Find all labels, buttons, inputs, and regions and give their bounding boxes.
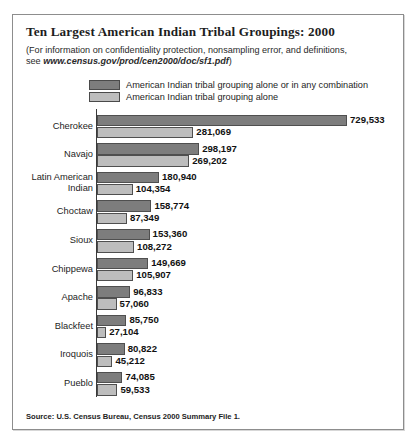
census-url-link[interactable]: www.census.gov/prod/cen2000/doc/sf1.pdf	[43, 56, 229, 66]
category-label: Blackfeet	[9, 321, 93, 332]
bar[interactable]	[97, 356, 112, 368]
category-label: Sioux	[9, 235, 93, 246]
category-label: Choctaw	[9, 206, 93, 217]
bar-value-label: 96,833	[130, 286, 162, 298]
bar[interactable]	[97, 372, 122, 384]
bar[interactable]	[97, 343, 125, 355]
chart-group: Pueblo74,08559,533	[13, 369, 405, 398]
bar[interactable]	[97, 229, 150, 241]
bar[interactable]	[97, 327, 106, 339]
plot-area: Cherokee729,533281,069Navajo298,197269,2…	[13, 109, 405, 399]
chart-group: Iroquois80,82245,212	[13, 341, 405, 370]
bar-value-label: 269,202	[189, 155, 227, 167]
figure-container: Ten Largest American Indian Tribal Group…	[12, 14, 404, 430]
bar[interactable]	[97, 315, 126, 327]
source-note: Source: U.S. Census Bureau, Census 2000 …	[26, 412, 240, 421]
bar[interactable]	[97, 270, 133, 282]
subtitle-line-1: (For information on confidentiality prot…	[26, 45, 347, 55]
bar-value-label: 298,197	[199, 143, 237, 155]
bar-value-label: 85,750	[126, 314, 158, 326]
subtitle-line-2-prefix: see	[26, 56, 43, 66]
chart-group: Latin AmericanIndian180,940104,354	[13, 169, 405, 198]
bar-value-label: 729,533	[347, 114, 385, 126]
category-label: Latin AmericanIndian	[9, 172, 93, 193]
bar-value-label: 108,272	[134, 241, 172, 253]
bar[interactable]	[97, 298, 117, 310]
bar[interactable]	[97, 200, 151, 212]
chart-group: Blackfeet85,75027,104	[13, 312, 405, 341]
chart-group: Apache96,83357,060	[13, 284, 405, 313]
bar[interactable]	[97, 258, 148, 270]
bar-value-label: 105,907	[133, 269, 171, 281]
legend-item-alone[interactable]: American Indian tribal grouping alone	[89, 91, 389, 102]
bar-value-label: 281,069	[193, 126, 231, 138]
legend-item-alone-or-combination[interactable]: American Indian tribal grouping alone or…	[89, 79, 389, 90]
legend-swatch-icon	[89, 80, 120, 90]
bar[interactable]	[97, 115, 347, 127]
bar[interactable]	[97, 143, 199, 155]
category-label: Chippewa	[9, 264, 93, 275]
legend-item-label: American Indian tribal grouping alone or…	[126, 80, 368, 90]
chart-title: Ten Largest American Indian Tribal Group…	[26, 24, 335, 40]
category-label: Navajo	[9, 149, 93, 160]
bar-value-label: 27,104	[106, 326, 138, 338]
bar-value-label: 149,669	[148, 257, 186, 269]
bar-value-label: 74,085	[122, 371, 154, 383]
bar[interactable]	[97, 286, 130, 298]
bar-value-label: 158,774	[151, 200, 189, 212]
legend-swatch-icon	[89, 92, 120, 102]
bar-value-label: 45,212	[112, 355, 144, 367]
bar[interactable]	[97, 172, 159, 184]
chart-group: Cherokee729,533281,069	[13, 112, 405, 141]
category-label: Iroquois	[9, 349, 93, 360]
bar-value-label: 153,360	[150, 228, 188, 240]
bar[interactable]	[97, 241, 134, 253]
bar-value-label: 87,349	[127, 212, 159, 224]
category-label: Cherokee	[9, 121, 93, 132]
chart-legend: American Indian tribal grouping alone or…	[89, 79, 389, 103]
bar[interactable]	[97, 384, 117, 396]
chart-group: Navajo298,197269,202	[13, 141, 405, 170]
bar-value-label: 80,822	[125, 343, 157, 355]
chart-group: Choctaw158,77487,349	[13, 198, 405, 227]
chart-group: Chippewa149,669105,907	[13, 255, 405, 284]
bar-value-label: 180,940	[159, 171, 197, 183]
bar[interactable]	[97, 184, 133, 196]
bar-value-label: 104,354	[133, 183, 171, 195]
bar[interactable]	[97, 155, 189, 167]
bar-value-label: 59,533	[117, 384, 149, 396]
chart-subtitle: (For information on confidentiality prot…	[26, 45, 394, 68]
subtitle-line-2-suffix: )	[229, 56, 232, 66]
bar-value-label: 57,060	[117, 298, 149, 310]
category-label: Apache	[9, 292, 93, 303]
bar[interactable]	[97, 213, 127, 225]
bar[interactable]	[97, 127, 193, 139]
category-label: Pueblo	[9, 378, 93, 389]
legend-item-label: American Indian tribal grouping alone	[126, 92, 278, 102]
chart-group: Sioux153,360108,272	[13, 226, 405, 255]
